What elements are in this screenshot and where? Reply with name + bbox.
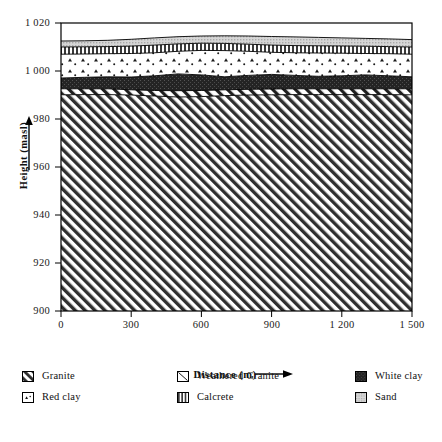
y-axis-title: Height (masl) — [18, 86, 29, 226]
legend-label-sand: Sand — [375, 391, 397, 402]
legend-label-granite: Granite — [42, 370, 75, 381]
layer-granite — [61, 95, 412, 311]
y-tick-label-1000: 1 000 — [4, 65, 50, 76]
legend-label-white-clay: White clay — [375, 370, 423, 381]
x-tick-label-1200: 1 200 — [312, 319, 372, 330]
calcrete-swatch-icon — [177, 392, 189, 403]
legend-label-weathered-granite: Weathered Granite — [197, 370, 279, 381]
legend: Granite Weathered Granite White clay Red… — [0, 362, 442, 406]
legend-label-red-clay: Red clay — [42, 391, 81, 402]
x-tick-label-900: 900 — [242, 319, 302, 330]
legend-label-calcrete: Calcrete — [197, 391, 234, 402]
granite-swatch-icon — [22, 371, 34, 382]
sand-swatch-icon — [355, 392, 367, 403]
y-tick-label-1020: 1 020 — [4, 17, 50, 28]
x-tick-label-300: 300 — [101, 319, 161, 330]
red-clay-swatch-icon — [22, 392, 34, 403]
weathered-granite-swatch-icon — [177, 371, 189, 382]
x-tick-label-1500: 1 500 — [382, 319, 442, 330]
y-axis-ticks — [55, 23, 61, 311]
y-tick-label-900: 900 — [4, 305, 50, 316]
x-tick-label-0: 0 — [31, 319, 91, 330]
x-tick-label-600: 600 — [171, 319, 231, 330]
strata-group — [61, 36, 412, 311]
white-clay-swatch-icon — [355, 371, 367, 382]
x-axis-ticks — [61, 311, 412, 317]
y-tick-label-920: 920 — [4, 257, 50, 268]
layer-red-clay — [61, 50, 412, 78]
geological-cross-section-figure: 1 020 1 000 980 960 940 920 900 0 300 60… — [0, 0, 442, 442]
